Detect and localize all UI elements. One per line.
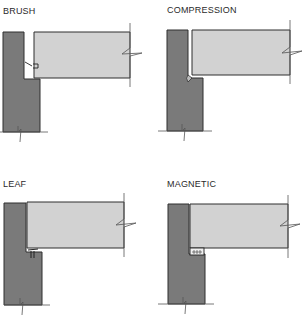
door-slab xyxy=(27,202,124,248)
door-slab xyxy=(190,204,288,248)
leaf-seal-detail-drawing xyxy=(0,160,152,319)
panel-magnetic: MAGNETIC xyxy=(152,160,305,319)
brush-seal-detail-drawing xyxy=(0,0,152,160)
magnetic-seal-detail-drawing xyxy=(152,160,305,319)
door-slab xyxy=(192,30,290,75)
door-slab xyxy=(34,32,130,78)
panel-leaf: LEAF xyxy=(0,160,152,319)
panel-brush: BRUSH xyxy=(0,0,152,160)
compression-seal-detail-drawing xyxy=(152,0,305,160)
panel-compression: COMPRESSION xyxy=(152,0,305,160)
